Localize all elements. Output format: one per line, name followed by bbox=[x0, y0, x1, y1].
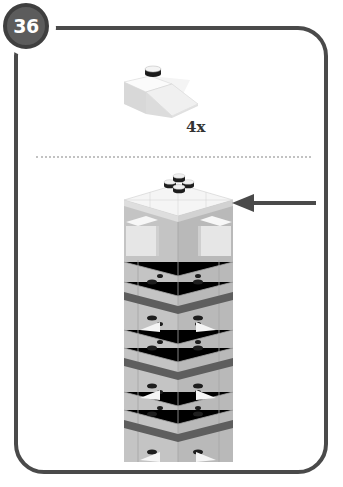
arrow-left-icon bbox=[232, 194, 316, 212]
slope-brick-icon bbox=[124, 66, 198, 118]
part-quantity: 4x bbox=[186, 118, 205, 136]
illustration-layer bbox=[0, 0, 343, 487]
tower-model bbox=[124, 174, 233, 462]
section-divider bbox=[36, 156, 311, 158]
